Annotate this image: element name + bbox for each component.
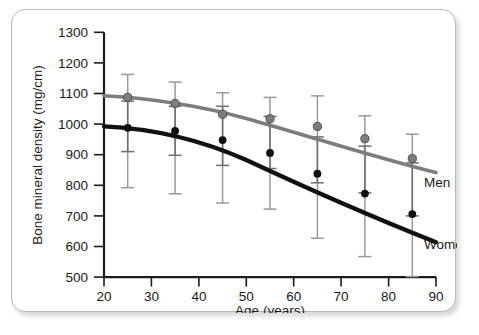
data-point — [219, 110, 227, 118]
data-point — [171, 99, 179, 107]
y-tick-label: 700 — [65, 209, 88, 224]
data-point — [124, 124, 132, 132]
series-label-men: Men — [424, 175, 450, 190]
y-axis-title: Bone mineral density (mg/cm) — [30, 65, 45, 244]
data-point — [313, 122, 321, 130]
x-axis-title: Age (years) — [235, 303, 305, 313]
x-tick-label: 60 — [286, 289, 301, 304]
data-point — [124, 93, 132, 101]
chart-plot-area: 1300 1200 1100 1000 900 800 700 600 500 — [12, 10, 457, 313]
x-tick-label: 90 — [428, 289, 443, 304]
data-point — [408, 155, 416, 163]
data-point — [171, 127, 179, 135]
y-tick-label: 800 — [65, 178, 88, 193]
y-tick-label: 900 — [65, 147, 88, 162]
y-axis-ticks — [94, 32, 104, 277]
data-point — [408, 210, 416, 218]
bone-mineral-density-chart: 1300 1200 1100 1000 900 800 700 600 500 — [12, 10, 457, 313]
x-axis-ticks — [104, 277, 436, 286]
data-point — [314, 170, 322, 178]
y-tick-label: 1100 — [59, 86, 88, 101]
series-label-women: Women — [424, 237, 457, 252]
data-point — [361, 190, 369, 198]
y-tick-label: 500 — [65, 270, 88, 285]
x-tick-label: 80 — [381, 289, 396, 304]
figure-card: 1300 1200 1100 1000 900 800 700 600 500 — [11, 9, 456, 312]
data-point — [219, 136, 227, 144]
x-tick-label: 50 — [239, 289, 254, 304]
data-point — [361, 135, 369, 143]
y-tick-label: 1200 — [58, 56, 88, 71]
y-tick-label: 600 — [65, 239, 88, 254]
men-error-bars — [121, 74, 419, 276]
x-tick-label: 20 — [96, 289, 111, 304]
y-tick-label: 1300 — [58, 25, 88, 40]
x-tick-label: 40 — [191, 289, 206, 304]
x-axis-tick-labels: 20 30 40 50 60 70 80 90 — [96, 289, 443, 304]
y-tick-label: 1000 — [58, 117, 88, 132]
y-axis-tick-labels: 1300 1200 1100 1000 900 800 700 600 500 — [58, 25, 88, 285]
data-point — [266, 115, 274, 123]
x-tick-label: 70 — [334, 289, 349, 304]
data-point — [266, 149, 274, 157]
x-tick-label: 30 — [144, 289, 159, 304]
